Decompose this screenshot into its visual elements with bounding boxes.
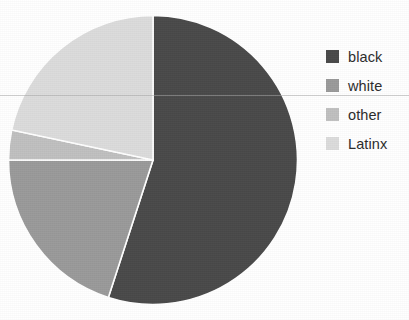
legend-item-black[interactable]: black xyxy=(326,42,406,71)
pie-chart-plot-area xyxy=(8,15,298,305)
legend-swatch-icon xyxy=(326,79,339,92)
legend-item-white[interactable]: white xyxy=(326,71,406,100)
pie-slice-group xyxy=(9,16,298,305)
legend-item-label: Latinx xyxy=(348,136,387,152)
legend-item-label: white xyxy=(348,78,382,94)
legend-item-other[interactable]: other xyxy=(326,100,406,129)
legend-swatch-icon xyxy=(326,108,339,121)
pie-chart-figure: black white other Latinx xyxy=(0,0,409,320)
legend-swatch-icon xyxy=(326,50,339,63)
legend-item-label: black xyxy=(348,49,382,65)
legend-item-label: other xyxy=(348,107,382,123)
legend-item-latinx[interactable]: Latinx xyxy=(326,129,406,158)
legend-swatch-icon xyxy=(326,137,339,150)
chart-legend: black white other Latinx xyxy=(326,42,406,158)
pie-svg xyxy=(8,15,298,305)
